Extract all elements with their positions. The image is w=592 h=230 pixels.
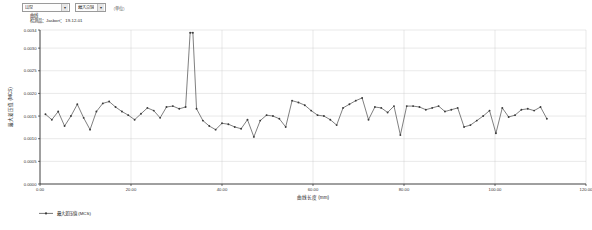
chevron-down-icon[interactable]: ▾ <box>61 4 68 11</box>
svg-text:0.0010: 0.0010 <box>24 136 37 141</box>
legend-label: 最大差压值 (MCS) <box>57 210 91 217</box>
mode-select[interactable]: 最大点值 ▾ <box>75 3 106 12</box>
svg-text:0.0030: 0.0030 <box>24 46 37 51</box>
chart-legend: 最大差压值 (MCS) <box>39 210 91 217</box>
series-line <box>45 33 546 137</box>
svg-text:60.00: 60.00 <box>308 187 319 192</box>
svg-text:0.0005: 0.0005 <box>24 159 37 164</box>
legend-marker-swatch <box>45 212 47 214</box>
chart-meta: 曲线 检测品：Jasbort： 19-12-01 <box>30 13 83 24</box>
line-chart: 0.00000.00050.00100.00150.00200.00250.00… <box>0 24 592 230</box>
meta-line-2: 检测品：Jasbort： 19-12-01 <box>30 18 83 23</box>
y-axis-ticks: 0.00000.00050.00100.00150.00200.00250.00… <box>24 28 40 187</box>
svg-text:0.0034: 0.0034 <box>24 28 37 33</box>
svg-text:20.00: 20.00 <box>126 187 137 192</box>
mode-select-value: 最大点值 <box>78 5 94 9</box>
svg-text:0.0000: 0.0000 <box>24 182 37 187</box>
svg-text:40.00: 40.00 <box>217 187 228 192</box>
toolbar-note: （单位） <box>111 5 127 11</box>
dataset-select-value: 山型 <box>25 5 33 9</box>
y-axis-title: 最大差压值 (MCS) <box>7 87 14 127</box>
svg-text:120.00: 120.00 <box>580 187 592 192</box>
svg-text:0.0015: 0.0015 <box>24 114 37 119</box>
grid-lines <box>40 30 586 184</box>
svg-text:0.0025: 0.0025 <box>24 68 37 73</box>
chevron-down-icon[interactable]: ▾ <box>97 4 104 11</box>
chart-area: 0.00000.00050.00100.00150.00200.00250.00… <box>0 24 592 230</box>
svg-text:80.00: 80.00 <box>399 187 410 192</box>
dataset-select[interactable]: 山型 ▾ <box>22 3 70 12</box>
svg-text:0.00: 0.00 <box>36 187 45 192</box>
x-axis-ticks: 0.0020.0040.0060.0080.00100.00120.00 <box>36 184 592 192</box>
x-axis-title: 曲线长度 (mm) <box>297 194 329 201</box>
svg-text:0.0020: 0.0020 <box>24 91 37 96</box>
svg-text:100.00: 100.00 <box>489 187 502 192</box>
series-markers <box>45 32 548 138</box>
chart-toolbar: 山型 ▾ 最大点值 ▾ （单位） <box>22 3 127 12</box>
chart-window: 山型 ▾ 最大点值 ▾ （单位） 曲线 检测品：Jasbort： 19-12-0… <box>0 0 592 230</box>
